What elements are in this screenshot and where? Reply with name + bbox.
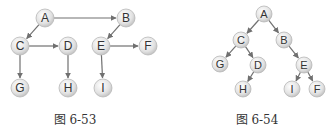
edge-A-C [27,25,39,39]
node-F-fig2: F [309,81,325,97]
svg-text:C: C [16,39,25,53]
node-I-fig2: I [284,81,300,97]
node-F-fig1: F [139,37,157,55]
node-C-fig2: C [233,32,249,48]
node-H-fig1: H [59,79,77,97]
edge-E-I [296,72,300,81]
svg-text:B: B [280,34,287,46]
svg-text:E: E [97,39,105,53]
node-B-fig1: B [117,9,135,27]
svg-text:B: B [122,11,130,25]
node-D-fig1: D [59,37,77,55]
node-H-fig2: H [235,81,251,97]
edge-E-I [101,55,102,78]
svg-text:I: I [290,83,293,95]
svg-text:A: A [260,8,268,20]
node-D-fig2: D [250,57,266,73]
svg-text:G: G [15,81,24,95]
svg-text:D: D [254,59,262,71]
edge-C-D [245,47,252,58]
node-E-fig1: E [92,37,110,55]
nodes-layer: ABCDEFGHIACBGDEHIF [11,6,325,97]
svg-text:I: I [101,81,104,95]
svg-text:F: F [314,83,321,95]
svg-text:H: H [64,81,73,95]
svg-text:F: F [144,39,151,53]
svg-text:A: A [41,11,49,25]
node-A-fig1: A [36,9,54,27]
diagram-canvas: ABCDEFGHIACBGDEHIF [0,0,336,132]
edge-D-H [248,72,254,82]
edge-E-F [308,72,313,81]
edge-A-B [269,20,279,33]
edge-C-G [226,46,236,57]
svg-text:D: D [64,39,73,53]
figure-caption-6-53: 图 6-53 [54,110,97,127]
svg-text:H: H [239,83,247,95]
edge-A-C [247,20,259,33]
node-B-fig2: B [276,32,292,48]
svg-text:C: C [237,34,245,46]
svg-text:G: G [216,58,225,70]
node-C-fig1: C [11,37,29,55]
node-A-fig2: A [256,6,272,22]
edge-B-E [108,25,120,39]
figure-caption-6-54: 图 6-54 [236,110,279,127]
node-E-fig2: E [296,57,312,73]
node-G-fig2: G [212,56,228,72]
svg-text:E: E [300,59,307,71]
node-I-fig1: I [94,79,112,97]
edge-B-E [289,46,298,58]
node-G-fig1: G [11,79,29,97]
